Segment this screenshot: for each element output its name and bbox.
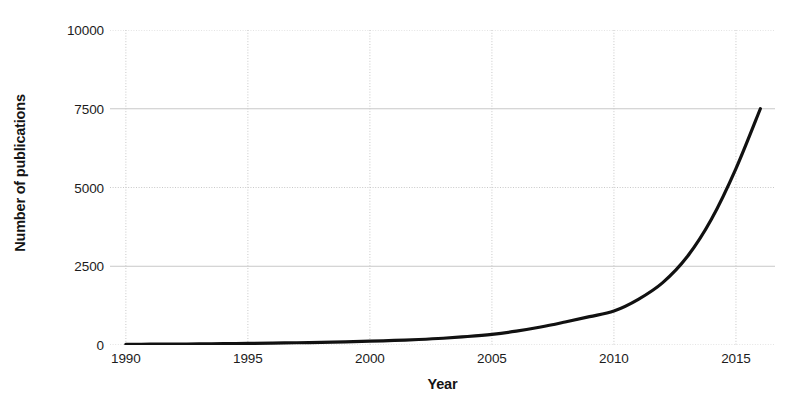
x-axis-title: Year <box>110 376 775 392</box>
horizontal-gridlines <box>110 30 775 345</box>
x-tick-label: 2015 <box>696 351 776 366</box>
y-axis-tick-labels: 025005000750010000 <box>32 30 104 345</box>
chart-svg <box>110 30 775 345</box>
x-tick-label: 1990 <box>86 351 166 366</box>
data-line-series-publications <box>126 109 761 345</box>
y-tick-label: 7500 <box>40 101 104 116</box>
y-tick-label: 2500 <box>40 259 104 274</box>
x-tick-label: 2005 <box>452 351 532 366</box>
publications-line-chart: Number of publications 02500500075001000… <box>0 0 792 412</box>
y-tick-label: 10000 <box>40 23 104 38</box>
x-axis-title-text: Year <box>428 376 458 392</box>
x-axis-tick-labels: 199019952000200520102015 <box>110 351 790 371</box>
x-tick-label: 1995 <box>208 351 288 366</box>
x-tick-label: 2000 <box>330 351 410 366</box>
x-tick-label: 2010 <box>574 351 654 366</box>
y-tick-label: 5000 <box>40 180 104 195</box>
plot-area <box>110 30 775 345</box>
y-axis-title-text: Number of publications <box>12 94 28 252</box>
